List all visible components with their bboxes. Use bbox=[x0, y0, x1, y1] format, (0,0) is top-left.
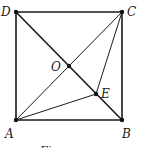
segment-ae bbox=[16, 94, 96, 120]
figure-caption: Figure bbox=[39, 144, 78, 148]
point-d bbox=[14, 10, 18, 14]
label-c: C bbox=[127, 5, 136, 19]
point-b bbox=[120, 118, 124, 122]
point-o bbox=[67, 64, 71, 68]
label-d: D bbox=[0, 5, 11, 19]
point-e bbox=[94, 92, 98, 96]
label-e: E bbox=[100, 87, 110, 101]
label-o: O bbox=[51, 60, 61, 74]
point-c bbox=[120, 10, 124, 14]
label-a: A bbox=[4, 127, 14, 141]
label-b: B bbox=[121, 127, 131, 141]
geometry-figure: D C A B O E Figure bbox=[0, 0, 143, 148]
segment-ce bbox=[96, 12, 122, 94]
point-a bbox=[14, 118, 18, 122]
